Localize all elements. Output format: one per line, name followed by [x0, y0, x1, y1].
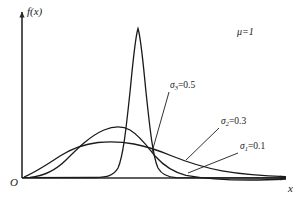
leader-line-sigma1 — [188, 153, 238, 173]
curve-label-sigma1: σ1=0.1 — [240, 142, 265, 152]
sigma-value-3: =0.5 — [178, 80, 195, 90]
normal-distribution-figure: f(x) x O μ=1 σ3=0.5 σ2=0.3 σ1=0.1 — [0, 0, 302, 202]
curve-label-sigma2: σ2=0.3 — [221, 117, 246, 127]
curve-label-sigma3: σ3=0.5 — [170, 81, 195, 91]
plot-canvas — [0, 0, 302, 202]
curve-sigma2 — [30, 127, 286, 180]
mu-parameter-label: μ=1 — [237, 27, 254, 37]
origin-label: O — [10, 177, 18, 188]
y-axis-label: f(x) — [27, 6, 42, 17]
x-axis-label: x — [288, 183, 293, 194]
sigma-value-2: =0.3 — [229, 116, 246, 126]
leader-line-sigma3 — [152, 92, 169, 152]
sigma-value-1: =0.1 — [248, 141, 265, 151]
leader-line-sigma2 — [186, 128, 219, 160]
